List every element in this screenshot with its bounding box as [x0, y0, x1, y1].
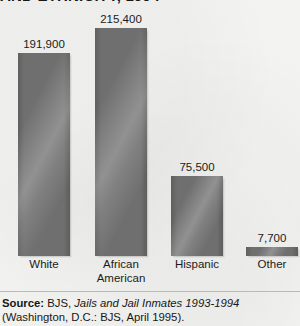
chart-title-text: AND ETHNICITY, 1994 — [0, 0, 300, 4]
source-publication-title: Jails and Jail Inmates 1993-1994 — [74, 297, 239, 309]
category-axis-labels: White African American Hispanic Other — [0, 258, 300, 288]
bar-value-white: 191,900 — [23, 38, 65, 51]
figure-container: AND ETHNICITY, 1994 191,900 215,400 75,5… — [0, 0, 300, 326]
category-label-white: White — [18, 258, 70, 272]
bar-group-african-american: 215,400 — [95, 28, 147, 256]
bar-other — [246, 247, 298, 256]
category-label-other: Other — [246, 258, 298, 272]
bar-value-other: 7,700 — [258, 232, 287, 245]
bar-group-white: 191,900 — [18, 53, 70, 256]
category-label-african-american: African American — [95, 258, 147, 285]
source-publication-details: (Washington, D.C.: BJS, April 1995). — [2, 311, 184, 323]
bar-white — [18, 53, 70, 256]
bar-value-hispanic: 75,500 — [179, 161, 214, 174]
source-label: Source: — [2, 297, 44, 309]
bar-african-american — [95, 28, 147, 256]
source-agency: BJS, — [47, 297, 71, 309]
source-note: Source: BJS, Jails and Jail Inmates 1993… — [2, 297, 298, 324]
bar-group-hispanic: 75,500 — [171, 176, 223, 256]
source-divider-rule — [0, 291, 300, 292]
plot-area: 191,900 215,400 75,500 7,700 — [0, 8, 300, 256]
bar-hispanic — [171, 176, 223, 256]
bar-group-other: 7,700 — [246, 247, 298, 256]
bar-value-african-american: 215,400 — [100, 13, 142, 26]
category-label-hispanic: Hispanic — [171, 258, 223, 272]
chart-title-clipped: AND ETHNICITY, 1994 — [0, 0, 300, 7]
